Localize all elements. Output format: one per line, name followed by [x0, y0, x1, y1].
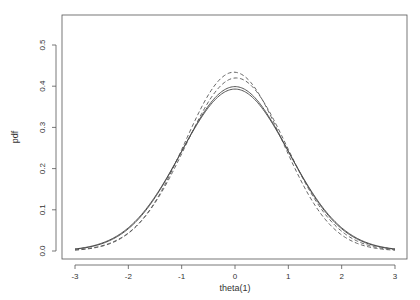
x-tick-label: 3: [393, 272, 398, 281]
x-axis: -3-2-10123: [71, 265, 397, 281]
plot-frame: [62, 15, 407, 259]
y-axis: 0.00.10.20.30.40.5: [38, 39, 56, 257]
y-tick-label: 0.0: [38, 245, 47, 257]
y-tick-label: 0.1: [38, 204, 47, 216]
y-tick-label: 0.5: [38, 39, 47, 51]
x-tick-label: -3: [71, 272, 79, 281]
y-axis-label: pdf: [10, 130, 20, 143]
x-axis-label: theta(1): [219, 283, 250, 293]
y-tick-label: 0.4: [38, 80, 47, 92]
x-tick-label: 1: [286, 272, 291, 281]
curves: [75, 72, 395, 250]
y-tick-label: 0.2: [38, 162, 47, 174]
x-tick-label: 0: [233, 272, 238, 281]
x-tick-label: 2: [339, 272, 344, 281]
curve-dashed-2: [75, 78, 395, 250]
curve-solid-1: [75, 87, 395, 250]
x-tick-label: -2: [125, 272, 133, 281]
curve-dashed-1: [75, 72, 395, 250]
y-tick-label: 0.3: [38, 121, 47, 133]
x-tick-label: -1: [178, 272, 186, 281]
curve-solid-2: [75, 89, 395, 249]
pdf-line-chart: -3-2-10123 0.00.10.20.30.40.5 theta(1) p…: [0, 0, 420, 300]
